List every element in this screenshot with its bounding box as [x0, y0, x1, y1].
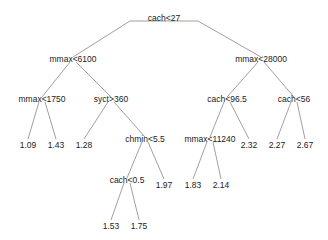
tree-edge — [193, 142, 207, 179]
tree-edge — [297, 102, 305, 139]
tree-edge — [114, 102, 145, 137]
tree-edge — [277, 102, 291, 139]
tree-edge — [73, 21, 130, 57]
tree-edge — [127, 142, 142, 178]
tree-edge — [130, 183, 139, 220]
leaf-value: 1.53 — [103, 222, 120, 231]
tree-edge — [76, 62, 111, 97]
leaf-value: 1.75 — [131, 222, 148, 231]
split-label: mmax<11240 — [184, 135, 235, 144]
split-label: cach<27 — [148, 14, 180, 23]
leaf-value: 2.32 — [241, 141, 258, 150]
split-label: mmax<6100 — [49, 55, 96, 64]
leaf-value: 1.09 — [20, 141, 37, 150]
tree-edge — [111, 183, 124, 220]
split-label: cach<0.5 — [110, 176, 145, 185]
tree-edge — [210, 102, 224, 137]
leaf-value: 1.43 — [48, 141, 65, 150]
leaf-value: 1.28 — [76, 141, 93, 150]
tree-edges — [0, 0, 328, 240]
tree-edge — [45, 102, 56, 139]
tree-edge — [84, 102, 108, 139]
split-label: chmin<5.5 — [125, 135, 164, 144]
leaf-value: 2.14 — [213, 181, 230, 190]
tree-edge — [42, 62, 70, 97]
leaf-value: 1.83 — [185, 181, 202, 190]
split-label: mmax<28000 — [235, 55, 287, 64]
regression-tree-diagram: cach<27mmax<6100mmax<28000mmax<1750syct>… — [0, 0, 328, 240]
leaf-value: 2.67 — [297, 141, 314, 150]
tree-edge — [198, 21, 261, 57]
split-label: syct>360 — [94, 95, 128, 104]
tree-edge — [227, 62, 258, 97]
tree-edge — [28, 102, 39, 139]
tree-edge — [213, 142, 221, 179]
tree-edge — [264, 62, 294, 97]
split-label: cach<56 — [278, 95, 310, 104]
leaf-value: 1.97 — [156, 181, 173, 190]
split-label: mmax<1750 — [18, 95, 65, 104]
leaf-value: 2.27 — [269, 141, 286, 150]
tree-edge — [148, 142, 164, 179]
split-label: cach<96.5 — [207, 95, 246, 104]
